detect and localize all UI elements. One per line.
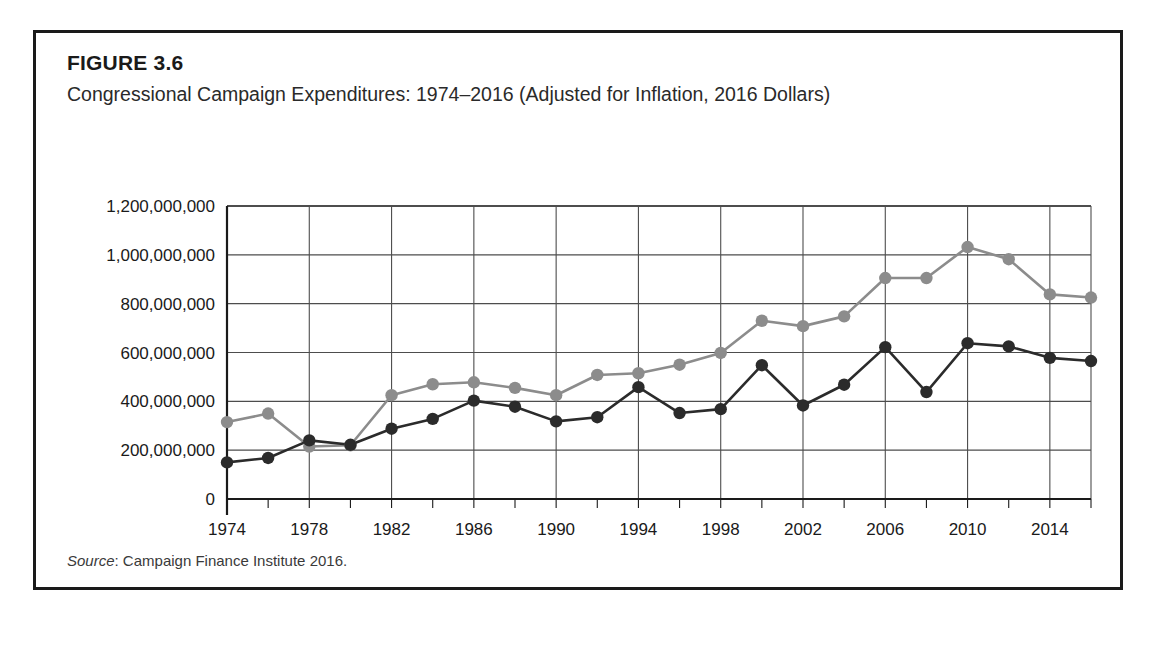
data-point-marker [838, 310, 850, 322]
data-point-marker [550, 415, 562, 427]
source-text: : Campaign Finance Institute 2016. [115, 552, 348, 569]
data-point-marker [632, 367, 644, 379]
x-axis-tick-label: 1974 [208, 520, 246, 539]
x-axis-tick-labels: 1974197819821986199019941998200220062010… [208, 520, 1069, 539]
data-point-marker [385, 389, 397, 401]
x-axis-tick-label: 1998 [702, 520, 740, 539]
y-axis-tick-label: 600,000,000 [120, 344, 215, 363]
y-axis-tick-label: 1,200,000,000 [106, 197, 215, 216]
figure-frame: FIGURE 3.6 Congressional Campaign Expend… [33, 30, 1123, 590]
data-point-marker [673, 359, 685, 371]
figure-title: FIGURE 3.6 [67, 51, 183, 75]
data-point-marker [221, 456, 233, 468]
x-axis-tick-label: 2010 [949, 520, 987, 539]
source-label: Source [67, 552, 115, 569]
data-point-marker [920, 272, 932, 284]
data-point-marker [427, 378, 439, 390]
x-axis-tick-label: 1982 [373, 520, 411, 539]
data-point-marker [303, 434, 315, 446]
data-point-marker [509, 382, 521, 394]
x-axis-tick-label: 1994 [620, 520, 658, 539]
y-axis-tick-label: 800,000,000 [120, 295, 215, 314]
data-point-marker [838, 379, 850, 391]
data-point-marker [385, 422, 397, 434]
chart-plot-area: 0200,000,000400,000,000600,000,000800,00… [36, 128, 1120, 548]
data-point-marker [961, 337, 973, 349]
expenditures-line-chart: 0200,000,000400,000,000600,000,000800,00… [36, 128, 1120, 548]
series-line [227, 247, 1091, 446]
x-axis-tick-label: 2002 [784, 520, 822, 539]
data-point-marker [756, 359, 768, 371]
source-note: Source: Campaign Finance Institute 2016. [67, 552, 347, 569]
data-point-marker [468, 376, 480, 388]
figure-subtitle: Congressional Campaign Expenditures: 197… [67, 83, 830, 106]
data-point-marker [591, 369, 603, 381]
data-point-marker [344, 439, 356, 451]
data-point-marker [468, 394, 480, 406]
x-axis-tick-label: 1986 [455, 520, 493, 539]
data-point-marker [221, 416, 233, 428]
data-point-marker [262, 452, 274, 464]
x-axis-tick-label: 1978 [290, 520, 328, 539]
y-axis-tick-label: 400,000,000 [120, 392, 215, 411]
data-series-layer [221, 241, 1097, 469]
data-point-marker [879, 272, 891, 284]
data-point-marker [1044, 288, 1056, 300]
data-point-marker [509, 401, 521, 413]
data-point-marker [879, 341, 891, 353]
x-axis-tick-label: 2006 [866, 520, 904, 539]
data-point-marker [550, 389, 562, 401]
data-point-marker [1085, 355, 1097, 367]
data-point-marker [756, 315, 768, 327]
data-point-marker [715, 347, 727, 359]
x-axis-tick-label: 1990 [537, 520, 575, 539]
data-point-marker [673, 407, 685, 419]
data-point-marker [797, 399, 809, 411]
x-axis-tick-label: 2014 [1031, 520, 1069, 539]
data-point-marker [1085, 291, 1097, 303]
y-axis-tick-label: 1,000,000,000 [106, 246, 215, 265]
data-point-marker [1003, 340, 1015, 352]
data-point-marker [427, 413, 439, 425]
data-point-marker [1044, 352, 1056, 364]
data-point-marker [262, 407, 274, 419]
y-axis-tick-label: 0 [206, 490, 215, 509]
data-point-marker [632, 381, 644, 393]
data-point-marker [961, 241, 973, 253]
data-point-marker [1003, 253, 1015, 265]
data-point-marker [797, 320, 809, 332]
data-point-marker [591, 411, 603, 423]
y-axis-tick-label: 200,000,000 [120, 441, 215, 460]
data-point-marker [920, 386, 932, 398]
y-axis-tick-labels: 0200,000,000400,000,000600,000,000800,00… [106, 197, 215, 509]
data-point-marker [715, 403, 727, 415]
